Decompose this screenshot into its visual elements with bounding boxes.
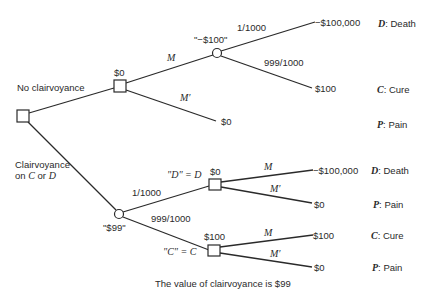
clairvoyance-chance-node [115,210,124,219]
no-clair-chance-value: "−$100" [194,34,227,45]
outcome-d-pain-label: P: Pain [373,199,403,210]
root-decision-node [17,110,29,122]
edge-label-top-1-1000: 1/1000 [237,22,266,33]
decision-c-node [208,245,220,256]
edge-label-top-999-1000: 999/1000 [264,57,304,68]
edge-top-m-prime [126,90,216,121]
no-clairvoyance-decision-node [114,80,126,92]
decision-d-value: $0 [210,166,221,177]
decision-tree: No clairvoyance Clairvoyance on C or D $… [0,0,430,293]
outcome-d-death-label: D: Death [370,165,409,176]
outcome-c-pain-value: $0 [314,262,325,273]
outcome-c-pain-label: P: Pain [372,262,402,273]
decision-c-label: "C" = C [163,246,197,257]
edge-label-top-m: M [166,52,176,63]
outcome-c-cure-value: $100 [313,230,334,241]
edge-label-c-m: M [263,227,273,238]
outcome-top-death-label: D: Death [377,18,416,29]
outcome-top-pain-label: P: Pain [377,119,407,130]
no-clairvoyance-label: No clairvoyance [17,82,85,93]
caption: The value of clairvoyance is $99 [155,278,291,289]
edge-label-bottom-999-1000: 999/1000 [151,213,191,224]
no-clairvoyance-chance-node [213,49,222,58]
outcome-top-pain-value: $0 [221,116,232,127]
edge-label-top-m-prime: M′ [179,92,191,103]
edge-label-d-m: M [263,161,273,172]
edge-top-death [221,22,315,51]
edge-label-c-m-prime: M′ [269,248,281,259]
decision-d-node [209,179,221,190]
outcome-d-pain-value: $0 [314,199,325,210]
clair-chance-value: "$99" [103,222,126,233]
clairvoyance-label-line1: Clairvoyance [15,159,70,170]
edge-label-bottom-1-1000: 1/1000 [132,187,161,198]
edge-d-m-prime [221,187,312,203]
clairvoyance-label-line2: on C or D [15,170,57,181]
decision-c-value: $100 [204,231,225,242]
outcome-top-death-value: −$100,000 [315,17,360,28]
edge-c-m-prime [220,253,312,267]
outcome-top-cure-label: C: Cure [377,84,410,95]
decision-d-label: "D" = D [167,169,202,180]
no-clair-decision-value: $0 [114,67,125,78]
outcome-d-death-value: −$100,000 [313,165,358,176]
edge-label-d-m-prime: M′ [269,183,281,194]
outcome-c-cure-label: C: Cure [371,230,404,241]
outcome-top-cure-value: $100 [315,83,336,94]
